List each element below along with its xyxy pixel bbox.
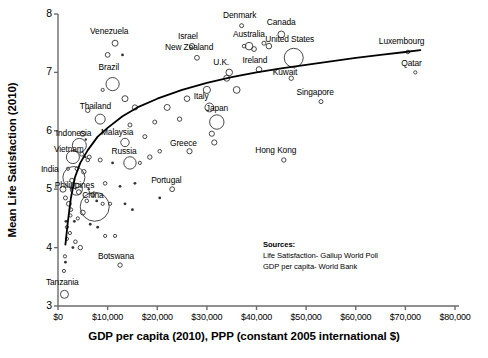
point-label-thailand: Thailand (80, 102, 111, 110)
point-label-venezuela: Venezuela (90, 27, 128, 35)
data-point (148, 155, 152, 159)
data-point (104, 234, 107, 237)
point-label-kuwait: Kuwait (273, 68, 298, 76)
data-point (101, 88, 104, 91)
point-label-brazil: Brazil (99, 63, 119, 71)
y-tick-label: 5 (12, 182, 52, 194)
data-point (138, 161, 141, 164)
point-label-portugal: Portugal (151, 176, 181, 184)
data-point (266, 43, 272, 49)
data-point (105, 52, 110, 57)
data-point-japan (210, 115, 224, 129)
point-label-japan: Japan (206, 104, 228, 112)
data-point (158, 149, 162, 153)
y-tick-label: 7 (12, 65, 52, 77)
data-point (63, 196, 67, 200)
data-point (85, 138, 87, 140)
point-label-philippines: Philippines (55, 181, 94, 189)
data-point-qatar (414, 71, 417, 74)
data-point-new-zealand (195, 55, 200, 60)
data-point (111, 162, 114, 165)
data-point (134, 182, 137, 185)
y-axis-title: Mean Life Satisfaction (2010) (6, 10, 26, 310)
chart-container: Mean Life Satisfaction (2010) GDP per ca… (0, 0, 488, 358)
data-point (184, 96, 190, 102)
sources-heading: Sources: (263, 240, 378, 251)
data-point (62, 269, 65, 272)
data-point (212, 140, 217, 145)
y-tick-label: 4 (12, 241, 52, 253)
data-point (177, 117, 181, 121)
data-point (153, 120, 157, 124)
point-label-china: China (82, 191, 103, 199)
data-point-united-states (284, 48, 303, 67)
data-point (164, 104, 170, 110)
data-point (89, 223, 92, 226)
sources-note: Sources: Life Satisfaction- Gallup World… (263, 240, 378, 272)
data-point (73, 220, 76, 223)
data-point (143, 135, 147, 139)
data-point-greece (187, 149, 192, 154)
data-point-brazil (106, 77, 119, 90)
point-label-hong-kong: Hong Kong (255, 146, 296, 154)
data-point-tanzania (60, 290, 68, 298)
data-point-botswana (118, 263, 122, 267)
data-point-russia (124, 157, 136, 169)
y-tick-label: 8 (12, 7, 52, 19)
x-axis-title: GDP per capita (2010), PPP (constant 200… (0, 330, 488, 342)
point-label-ireland: Ireland (242, 56, 267, 64)
data-point (103, 182, 107, 186)
point-label-u-k-: U.K. (213, 58, 229, 66)
data-point-portugal (170, 187, 175, 192)
data-point-u-k- (226, 69, 233, 76)
point-label-india: India (41, 165, 59, 173)
data-point (71, 246, 74, 249)
point-label-vietnam: Vietnam (54, 145, 84, 153)
point-label-botswana: Botswana (98, 252, 134, 260)
data-point (124, 202, 127, 205)
data-point-hong-kong (282, 158, 286, 162)
point-label-singapore: Singapore (297, 88, 334, 96)
point-label-new-zealand: New Zealand (165, 43, 213, 51)
data-point-thailand (95, 114, 105, 124)
point-label-luxembourg: Luxembourg (379, 37, 425, 45)
data-point (158, 197, 161, 200)
x-tick-label: $80,000 (425, 312, 485, 322)
sources-line-gdp: GDP per capita- World Bank (263, 262, 378, 273)
point-label-italy: Italy (194, 92, 209, 100)
point-label-malaysia: Malaysia (101, 128, 133, 136)
point-label-greece: Greece (170, 139, 197, 147)
data-point (98, 158, 102, 162)
data-point (78, 245, 82, 249)
point-label-denmark: Denmark (223, 11, 256, 19)
point-label-indonesia: Indonesia (56, 129, 91, 137)
y-tick-label: 3 (12, 299, 52, 311)
scatter-plot-canvas (0, 0, 488, 358)
data-point (119, 185, 122, 188)
y-tick-label: 6 (12, 124, 52, 136)
data-point (122, 96, 128, 102)
point-label-qatar: Qatar (401, 59, 421, 67)
data-point (76, 217, 79, 220)
data-point (64, 261, 67, 264)
data-point (233, 87, 240, 94)
data-point (96, 226, 99, 229)
sources-line-life-satisfaction: Life Satisfaction- Gallup World Poll (263, 251, 378, 262)
data-point (131, 208, 134, 211)
data-point-venezuela (112, 40, 118, 46)
data-point (121, 53, 124, 56)
data-point (74, 240, 78, 244)
point-label-australia: Australia (233, 30, 265, 38)
data-point (63, 255, 66, 258)
point-label-russia: Russia (111, 147, 136, 155)
point-label-israel: Israel (178, 32, 198, 40)
point-label-tanzania: Tanzania (46, 278, 79, 286)
point-label-united-states: United States (265, 35, 314, 43)
data-point-australia (245, 42, 253, 50)
data-point (68, 231, 71, 234)
data-point (209, 131, 214, 136)
data-point-denmark (240, 24, 244, 28)
data-point (113, 234, 116, 237)
point-label-canada: Canada (267, 18, 296, 26)
data-point (101, 202, 104, 205)
